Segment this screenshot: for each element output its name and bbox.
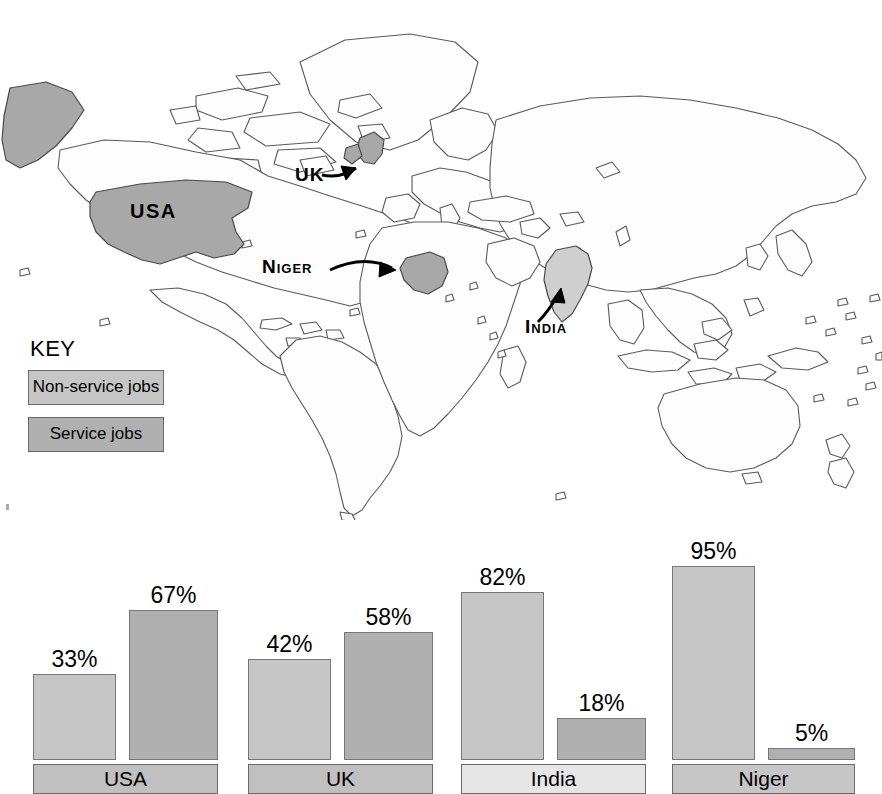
key-item-service: Service jobs [28,417,164,452]
bar-value-label: 5% [795,720,828,747]
key-item-label: Non-service jobs [33,377,160,396]
chart-group: 33%67%USA [33,530,218,760]
bar-india-service: 18% [557,718,646,760]
bar-usa-service: 67% [129,610,218,760]
country-label-text: USA [104,767,147,791]
chart-group: 82%18%India [461,530,646,760]
map-label-uk: UK [295,164,324,186]
key-legend: KEY Non-service jobs Service jobs [28,336,188,464]
key-item-non-service: Non-service jobs [28,370,164,405]
country-label-text: UK [326,767,355,791]
chart-group: 95%5%Niger [672,530,855,760]
bar-niger-service: 5% [768,748,855,760]
bar-uk-non-service: 42% [248,659,331,760]
bar-value-label: 82% [479,564,525,591]
bar-value-label: 95% [690,538,736,565]
map-label-usa: USA [130,200,177,223]
country-label-bar-usa: USA [33,764,218,794]
world-map-panel: USA UK Niger India KEY Non-service jobs … [0,0,882,520]
country-india [544,246,592,322]
key-item-label: Service jobs [50,424,143,443]
country-label-bar-india: India [461,764,646,794]
map-label-niger: Niger [262,256,313,278]
bar-uk-service: 58% [344,632,433,760]
country-label-bar-niger: Niger [672,764,855,794]
bar-usa-non-service: 33% [33,674,116,760]
infographic-page: USA UK Niger India KEY Non-service jobs … [0,0,882,794]
bar-chart: 33%67%USA42%58%UK82%18%India95%5%Niger [0,500,882,794]
country-label-text: India [531,767,577,791]
bar-india-non-service: 82% [461,592,544,760]
country-label-bar-uk: UK [248,764,433,794]
uk-arrow-head [341,166,356,180]
bar-value-label: 42% [266,631,312,658]
country-uk-ireland [344,144,362,164]
bar-niger-non-service: 95% [672,566,755,760]
bar-value-label: 58% [365,604,411,631]
key-title: KEY [30,336,188,362]
bar-value-label: 33% [51,646,97,673]
chart-group: 42%58%UK [248,530,433,760]
bar-value-label: 18% [578,690,624,717]
bar-value-label: 67% [150,582,196,609]
map-label-india: India [525,316,567,338]
country-label-text: Niger [738,767,788,791]
